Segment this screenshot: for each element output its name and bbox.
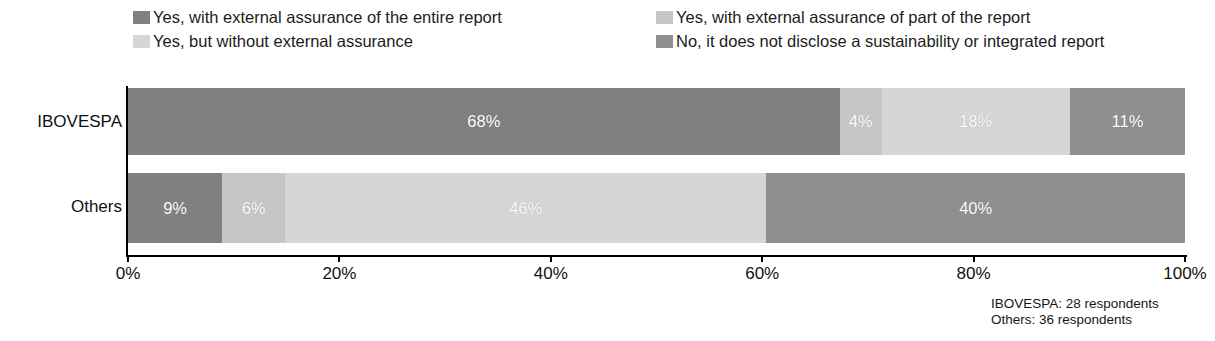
bar-segment[interactable]: 40% bbox=[766, 173, 1185, 243]
bar-segment-value-label: 9% bbox=[163, 199, 187, 218]
bar-row-others: 9%6%46%40% bbox=[128, 173, 1185, 243]
x-axis-tick-mark bbox=[550, 255, 552, 262]
bar-segment[interactable]: 18% bbox=[882, 88, 1070, 155]
y-axis-category-labels: IBOVESPA Others bbox=[0, 86, 122, 255]
bar-row-ibovespa: 68%4%18%11% bbox=[128, 88, 1185, 155]
bar-segment[interactable]: 9% bbox=[128, 173, 222, 243]
bar-segment[interactable]: 46% bbox=[285, 173, 766, 243]
x-axis-tick-mark bbox=[1184, 255, 1186, 262]
x-axis-tick-label: 60% bbox=[745, 264, 779, 284]
bar-segment[interactable]: 6% bbox=[222, 173, 285, 243]
footnote-ibovespa-respondents: IBOVESPA: 28 respondents bbox=[991, 296, 1191, 312]
x-axis-tick-mark bbox=[761, 255, 763, 262]
bar-segment[interactable]: 4% bbox=[840, 88, 882, 155]
footnote-others-respondents: Others: 36 respondents bbox=[991, 312, 1191, 328]
legend-item-no-report[interactable]: No, it does not disclose a sustainabilit… bbox=[656, 32, 1104, 50]
x-axis-tick-mark bbox=[338, 255, 340, 262]
legend-swatch-icon bbox=[656, 11, 673, 24]
legend-item-label: Yes, with external assurance of the enti… bbox=[153, 8, 502, 26]
x-axis-line bbox=[126, 255, 1187, 257]
legend-item-entire-report[interactable]: Yes, with external assurance of the enti… bbox=[133, 8, 502, 26]
legend-item-part-of-report[interactable]: Yes, with external assurance of part of … bbox=[656, 8, 1030, 26]
bar-segment-value-label: 68% bbox=[467, 112, 500, 131]
legend-item-label: Yes, but without external assurance bbox=[153, 32, 413, 50]
x-axis-ticks: 0%20%40%60%80%100% bbox=[128, 262, 1185, 288]
plot-area: 68%4%18%11% 9%6%46%40% bbox=[128, 86, 1185, 255]
bar-segment-value-label: 46% bbox=[509, 199, 542, 218]
x-axis-tick-label: 20% bbox=[322, 264, 356, 284]
x-axis-tick-label: 100% bbox=[1163, 264, 1206, 284]
legend-item-without-assurance[interactable]: Yes, but without external assurance bbox=[133, 32, 413, 50]
bar-segment-value-label: 4% bbox=[849, 112, 873, 131]
x-axis-tick-label: 80% bbox=[957, 264, 991, 284]
bar-segment-value-label: 6% bbox=[242, 199, 266, 218]
y-axis-label-others: Others bbox=[2, 197, 122, 217]
x-axis-tick-mark bbox=[127, 255, 129, 262]
bar-segment-value-label: 40% bbox=[959, 199, 992, 218]
chart-legend: Yes, with external assurance of the enti… bbox=[0, 0, 1215, 62]
bar-segment[interactable]: 11% bbox=[1070, 88, 1185, 155]
bar-segment-value-label: 11% bbox=[1112, 112, 1144, 131]
legend-swatch-icon bbox=[133, 11, 150, 24]
legend-swatch-icon bbox=[656, 35, 673, 48]
x-axis-tick-mark bbox=[973, 255, 975, 262]
legend-item-label: No, it does not disclose a sustainabilit… bbox=[676, 32, 1104, 50]
y-axis-label-ibovespa: IBOVESPA bbox=[2, 112, 122, 132]
legend-item-label: Yes, with external assurance of part of … bbox=[676, 8, 1030, 26]
x-axis-tick-label: 0% bbox=[116, 264, 141, 284]
chart-footnotes: IBOVESPA: 28 respondents Others: 36 resp… bbox=[991, 296, 1191, 328]
legend-swatch-icon bbox=[133, 35, 150, 48]
x-axis-tick-label: 40% bbox=[534, 264, 568, 284]
bar-segment-value-label: 18% bbox=[959, 112, 992, 131]
bar-segment[interactable]: 68% bbox=[128, 88, 840, 155]
stacked-bar-chart: Yes, with external assurance of the enti… bbox=[0, 0, 1215, 341]
